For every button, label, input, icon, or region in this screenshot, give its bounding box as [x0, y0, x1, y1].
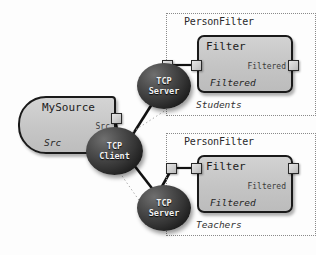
group-students-title: PersonFilter [184, 16, 254, 27]
filter-title-students: Filter [206, 40, 246, 53]
port-filter-bottom-in[interactable] [191, 163, 202, 174]
source-interface-label: Src [44, 137, 61, 148]
port-source-out[interactable] [111, 113, 122, 124]
filter-port-label-students: Filtered [247, 62, 286, 71]
node-tcp-server-bottom-line2: Server [149, 208, 180, 218]
diagram-canvas: PersonFilter Filter Filtered Filtered St… [0, 0, 316, 255]
source-title: MySource [42, 101, 95, 114]
filter-interface-label-students: Filtered [210, 77, 256, 88]
port-filter-top-out[interactable] [288, 60, 299, 71]
filter-box-teachers[interactable]: Filter Filtered Filtered [197, 155, 293, 213]
filter-interface-label-teachers: Filtered [210, 197, 256, 208]
node-tcp-server-top-line2: Server [149, 86, 180, 96]
node-tcp-server-bottom[interactable]: TCP Server [137, 185, 191, 231]
group-teachers-title: PersonFilter [184, 136, 254, 147]
node-tcp-server-bottom-line1: TCP [156, 198, 171, 208]
node-tcp-client-line1: TCP [107, 141, 122, 151]
filter-title-teachers: Filter [206, 160, 246, 173]
node-tcp-server-top[interactable]: TCP Server [137, 63, 191, 109]
group-students-footer: Students [196, 99, 242, 110]
filter-port-label-teachers: Filtered [247, 182, 286, 191]
node-tcp-client-line2: Client [99, 151, 130, 161]
port-server-bottom-in[interactable] [166, 163, 177, 174]
group-teachers-footer: Teachers [196, 219, 242, 230]
port-filter-top-in[interactable] [191, 60, 202, 71]
node-tcp-client[interactable]: TCP Client [86, 127, 143, 175]
filter-box-students[interactable]: Filter Filtered Filtered [197, 35, 293, 93]
port-filter-bottom-out[interactable] [288, 163, 299, 174]
node-tcp-server-top-line1: TCP [156, 76, 171, 86]
